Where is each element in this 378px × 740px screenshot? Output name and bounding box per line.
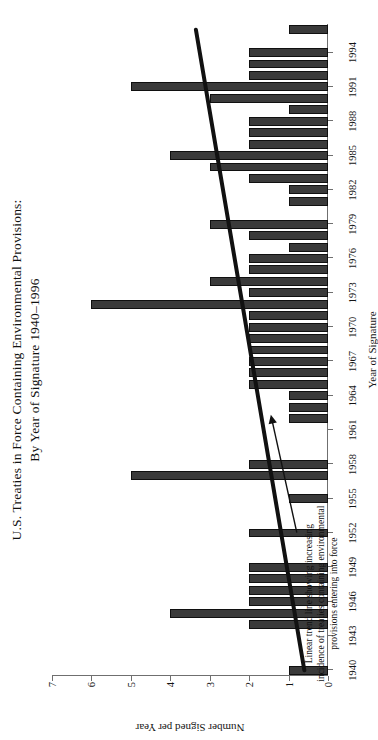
y-axis-tick-label: 0 (323, 682, 334, 702)
y-axis-tick-label: 6 (86, 682, 97, 702)
x-axis-tick (328, 120, 333, 121)
x-axis-tick-label: 1958 (347, 454, 358, 475)
y-axis-tick (170, 676, 171, 681)
x-axis-tick (328, 498, 333, 499)
y-axis-tick-label: 4 (165, 682, 176, 702)
x-axis-tick (328, 429, 333, 430)
x-axis-tick-label: 1955 (347, 488, 358, 509)
x-axis-tick (328, 189, 333, 190)
y-axis-tick-label: 3 (204, 682, 215, 702)
y-axis-tick-label: 1 (283, 682, 294, 702)
x-axis-tick (328, 223, 333, 224)
x-axis-tick (328, 463, 333, 464)
y-axis-tick (131, 676, 132, 681)
x-axis-tick-label: 1973 (347, 282, 358, 303)
x-axis-tick-label: 1970 (347, 317, 358, 338)
x-axis-tick-label: 1949 (347, 557, 358, 578)
x-axis-tick (328, 258, 333, 259)
y-axis-tick-label: 7 (47, 682, 58, 702)
plot-area: 01234567 Number Signed per Year 19401943… (52, 24, 328, 676)
x-axis-tick (328, 155, 333, 156)
y-axis-tick (210, 676, 211, 681)
trend-annotation: Linear trend line showing increasing inc… (303, 505, 340, 683)
x-axis-tick-label: 1988 (347, 111, 358, 132)
x-axis-tick-label: 1967 (347, 351, 358, 372)
x-axis-tick-label: 1961 (347, 420, 358, 441)
x-axis-tick (328, 86, 333, 87)
x-axis-tick-label: 1976 (347, 248, 358, 269)
x-axis-title: Year of Signature (366, 311, 378, 388)
x-axis-tick-label: 1991 (347, 76, 358, 97)
x-axis-tick-label: 1946 (347, 591, 358, 612)
chart-title: U.S. Treaties in Force Containing Enviro… (8, 0, 44, 740)
trend-annotation-line1: Linear trend line showing increasing (303, 505, 315, 683)
y-axis-tick-label: 5 (125, 682, 136, 702)
x-axis-tick-label: 1940 (347, 660, 358, 681)
trend-annotation-line3: provisions entering into force (328, 505, 340, 683)
x-axis-tick-label: 1979 (347, 214, 358, 235)
y-axis-tick (249, 676, 250, 681)
x-axis-tick-label: 1952 (347, 523, 358, 544)
y-axis-tick (289, 676, 290, 681)
x-axis-tick-label: 1994 (347, 42, 358, 63)
x-axis-tick-label: 1964 (347, 385, 358, 406)
y-axis-tick (91, 676, 92, 681)
trend-annotation-line2: incidence of treaties containing environ… (315, 505, 327, 683)
x-axis-tick (328, 292, 333, 293)
annotation-arrow-head (269, 415, 277, 425)
x-axis-tick (328, 360, 333, 361)
x-axis-tick (328, 52, 333, 53)
trend-line-layer (52, 24, 328, 676)
annotation-arrow (272, 422, 297, 533)
y-axis-tick-label: 2 (244, 682, 255, 702)
x-axis-tick-label: 1982 (347, 179, 358, 200)
y-axis-title: Number Signed per Year (136, 722, 245, 734)
linear-trend-line (196, 30, 304, 671)
chart-title-line1: U.S. Treaties in Force Containing Enviro… (9, 199, 24, 540)
x-axis-tick (328, 326, 333, 327)
x-axis-tick-label: 1985 (347, 145, 358, 166)
chart-title-line2: By Year of Signature 1940–1996 (26, 0, 44, 740)
x-axis-tick-label: 1943 (347, 625, 358, 646)
y-axis-tick (52, 676, 53, 681)
x-axis-tick (328, 395, 333, 396)
